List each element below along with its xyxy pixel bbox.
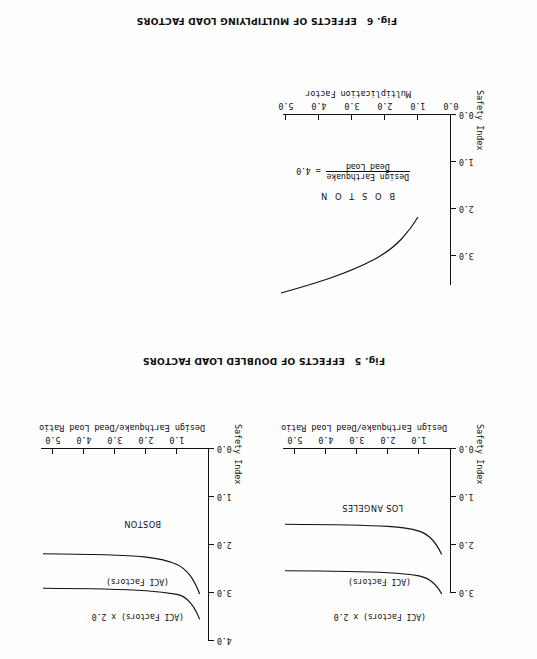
- figure-5: 0.0 1.0 2.0 3.0 4.0 1.0 2.0 3.0 4.0 5.0 …: [0, 329, 537, 659]
- fraction-denominator: Dead Load: [345, 161, 391, 170]
- figure-5-number: Fig. 5: [355, 356, 385, 367]
- curve-label-aci: (ACI Factors): [348, 577, 411, 587]
- curve-label-aci-x2: (ACI Factors) x 2.0: [92, 612, 184, 622]
- city-label-boston: B O S T O N: [319, 191, 395, 201]
- figure-6-caption: Fig. 6EFFECTS OF MULTIPLYING LOAD FACTOR…: [136, 16, 397, 27]
- curve-safety-index: [281, 217, 418, 293]
- city-label-boston: BOSTON: [124, 519, 161, 529]
- chart-fig5-losangeles: 0.0 1.0 2.0 3.0 1.0 2.0 3.0 4.0 5.0 Desi…: [282, 404, 487, 649]
- curve-label-aci: (ACI Factors): [106, 577, 169, 587]
- scanned-page: 0.0 1.0 2.0 3.0 4.0 1.0 2.0 3.0 4.0 5.0 …: [0, 0, 537, 659]
- figure-6: 0.0 1.0 2.0 3.0 0.0 1.0 2.0 3.0 4.0 5.0 …: [0, 0, 537, 319]
- curve-svg: [282, 65, 487, 315]
- annotation-design-earthquake-ratio: Design Earthquake Dead Load = 4.0: [296, 161, 410, 181]
- figure-6-number: Fig. 6: [367, 16, 397, 27]
- curve-aci: [285, 524, 442, 554]
- fraction-numerator: Design Earthquake: [326, 171, 410, 181]
- annotation-value: 4.0: [296, 166, 311, 176]
- city-label-losangeles: LOS ANGELES: [342, 503, 403, 513]
- fraction: Design Earthquake Dead Load: [326, 161, 410, 181]
- chart-fig6-boston: 0.0 1.0 2.0 3.0 0.0 1.0 2.0 3.0 4.0 5.0 …: [282, 65, 487, 315]
- figure-6-title: EFFECTS OF MULTIPLYING LOAD FACTORS: [136, 16, 356, 27]
- figure-5-title: EFFECTS OF DOUBLED LOAD FACTORS: [143, 356, 345, 367]
- chart-fig5-boston: 0.0 1.0 2.0 3.0 4.0 1.0 2.0 3.0 4.0 5.0 …: [40, 404, 245, 649]
- curve-label-aci-x2: (ACI Factors) x 2.0: [334, 612, 426, 622]
- figure-5-caption: Fig. 5EFFECTS OF DOUBLED LOAD FACTORS: [143, 356, 385, 367]
- equals-sign: =: [316, 166, 321, 176]
